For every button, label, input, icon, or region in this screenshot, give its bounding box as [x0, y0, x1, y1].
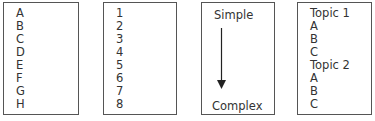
numbers-box: 1 2 3 4 5 6 7 8: [103, 2, 177, 115]
topic-heading: Topic 1: [298, 7, 350, 20]
topics-box: Topic 1 A B C Topic 2 A B C: [297, 2, 372, 115]
list-item: 8: [104, 98, 123, 111]
topic-heading: Topic 2: [298, 59, 350, 72]
letters-box: A B C D E F G H: [3, 2, 79, 115]
list-item: A: [298, 72, 350, 85]
list-item: B: [298, 85, 350, 98]
progression-box: Simple Complex: [201, 2, 275, 115]
list-item: H: [4, 98, 25, 111]
list-item: C: [298, 98, 350, 111]
letters-list: A B C D E F G H: [4, 7, 25, 111]
list-item: A: [298, 20, 350, 33]
topics-list: Topic 1 A B C Topic 2 A B C: [298, 7, 350, 111]
numbers-list: 1 2 3 4 5 6 7 8: [104, 7, 123, 111]
complex-label: Complex: [212, 99, 262, 113]
list-item: B: [298, 33, 350, 46]
